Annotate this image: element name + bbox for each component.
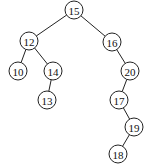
node-label: 10 [13, 66, 25, 78]
node-label: 12 [24, 36, 35, 48]
tree-edge [21, 49, 26, 62]
tree-node-17: 17 [110, 91, 128, 109]
tree-edge [36, 15, 66, 36]
tree-edge [49, 80, 51, 91]
tree-node-10: 10 [9, 62, 27, 80]
tree-nodes: 15121610142013171918 [9, 1, 143, 163]
tree-edge [81, 16, 105, 36]
node-label: 20 [125, 66, 137, 78]
tree-node-13: 13 [38, 91, 56, 109]
tree-edge [122, 79, 127, 91]
tree-diagram: 15121610142013171918 [0, 0, 152, 168]
tree-node-20: 20 [121, 62, 139, 80]
node-label: 17 [114, 95, 126, 107]
node-label: 14 [48, 66, 60, 78]
node-label: 15 [69, 5, 81, 17]
tree-edge [117, 50, 126, 64]
node-label: 13 [42, 95, 54, 107]
node-label: 16 [107, 37, 119, 49]
tree-node-14: 14 [44, 62, 62, 80]
node-label: 18 [113, 149, 125, 161]
tree-edge [35, 48, 48, 64]
tree-edge [123, 108, 129, 119]
tree-node-15: 15 [65, 1, 83, 19]
tree-node-19: 19 [125, 118, 143, 136]
tree-node-16: 16 [103, 33, 121, 51]
node-label: 19 [129, 122, 141, 134]
tree-node-12: 12 [20, 32, 38, 50]
tree-node-18: 18 [109, 145, 127, 163]
tree-edge [123, 135, 130, 147]
